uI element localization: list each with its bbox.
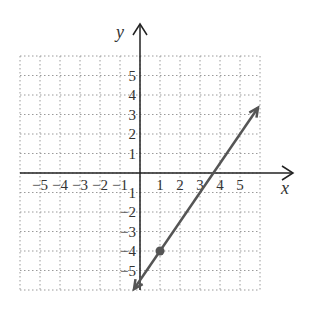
- graph-line: [134, 108, 258, 289]
- x-axis-label: x: [280, 178, 289, 198]
- coordinate-plane: x y −5−4−3−2−112345 54321−2−3−4−51: [0, 0, 311, 311]
- y-tick-label: 2: [129, 126, 137, 142]
- x-tick-label: −5: [32, 177, 48, 193]
- x-tick-label: −3: [72, 177, 88, 193]
- y-tick-label: −2: [120, 204, 136, 220]
- y-tick-label: 1: [129, 146, 137, 162]
- y-tick-label: 3: [129, 107, 137, 123]
- y-tick-label: 4: [129, 87, 137, 103]
- x-tick-label: 4: [216, 177, 224, 193]
- x-tick-label: 1: [156, 177, 164, 193]
- y-tick-label: −3: [120, 224, 136, 240]
- x-tick-label: −1: [112, 177, 128, 193]
- y-tick-label: −4: [120, 243, 136, 259]
- y-axis-label: y: [114, 22, 124, 42]
- y-tick-label: 5: [129, 68, 137, 84]
- y-tick-label: 1: [129, 185, 137, 201]
- plotted-point: [156, 247, 165, 256]
- x-tick-label: 5: [236, 177, 244, 193]
- x-tick-labels: −5−4−3−2−112345: [32, 177, 244, 193]
- x-tick-label: −4: [52, 177, 68, 193]
- x-tick-label: −2: [92, 177, 108, 193]
- y-tick-label: −5: [120, 263, 136, 279]
- x-tick-label: 2: [176, 177, 184, 193]
